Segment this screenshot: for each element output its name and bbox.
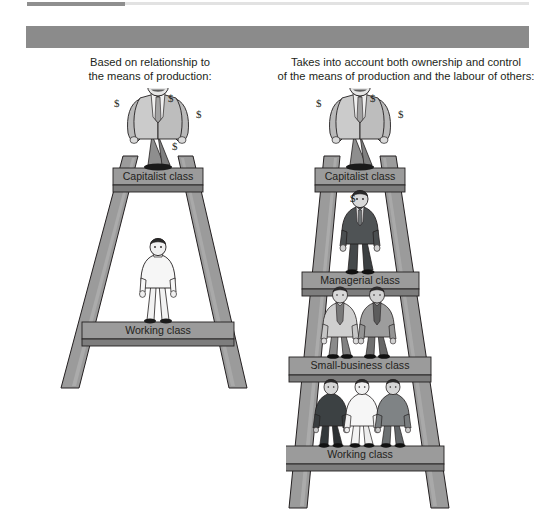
- wright-rung-managerial-label: Managerial class: [320, 274, 400, 286]
- wright-rung-working: Working class: [286, 446, 444, 471]
- header-bar: [26, 26, 529, 48]
- wright-rung-capitalist-label: Capitalist class: [325, 170, 396, 182]
- subtitle-wright-line-1: Takes into account both ownership and co…: [272, 56, 540, 70]
- marx-rung-working-label: Working class: [125, 324, 191, 336]
- marx-rung-working: Working class: [82, 322, 234, 346]
- dollar-sign-icon: $: [172, 140, 178, 152]
- marx-rung-capitalist: Capitalist class: [113, 168, 203, 192]
- header-title-marx: Marx's Model: [26, 0, 276, 22]
- dollar-sign-icon: $: [370, 92, 376, 104]
- dollar-sign-icon: $: [114, 97, 120, 109]
- wright-small-business-figure-2: [358, 287, 396, 359]
- wright-worker-figure-2: [344, 379, 380, 447]
- wright-rung-managerial: Managerial class: [302, 272, 419, 296]
- wright-rung-small-business: Small-business class: [289, 357, 431, 382]
- subtitle-wright-line-2: of the means of production and the labou…: [272, 70, 540, 84]
- marx-ladder: Capitalist class Working class $ $ $ $: [20, 88, 280, 408]
- dollar-sign-icon: $: [196, 108, 202, 120]
- subtitle-marx-line-1: Based on relationship to: [30, 56, 270, 70]
- wright-worker-figure-3: [375, 379, 411, 447]
- header-title-wright: Wright's Model: [276, 0, 529, 22]
- dollar-sign-icon: $: [168, 92, 174, 104]
- wright-ladder: Capitalist class Managerial class Small-…: [286, 88, 554, 524]
- wright-rung-working-label: Working class: [327, 448, 393, 460]
- marx-worker-figure: [140, 238, 177, 323]
- diagram-canvas: Marx's Model Wright's Model Based on rel…: [0, 0, 554, 524]
- subtitle-wright: Takes into account both ownership and co…: [272, 56, 540, 83]
- dollar-sign-icon: $: [350, 192, 356, 204]
- subtitle-marx-line-2: the means of production:: [30, 70, 270, 84]
- marx-rung-capitalist-label: Capitalist class: [123, 170, 194, 182]
- wright-manager-figure: [340, 190, 380, 274]
- dollar-sign-icon: $: [398, 108, 404, 120]
- subtitle-marx: Based on relationship to the means of pr…: [30, 56, 270, 83]
- dollar-sign-icon: $: [316, 97, 322, 109]
- wright-rung-capitalist: Capitalist class: [315, 168, 405, 192]
- wright-rung-small-business-label: Small-business class: [311, 359, 410, 371]
